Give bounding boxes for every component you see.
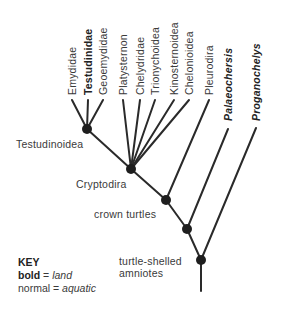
label-testudinoidea: Testudinoidea: [16, 138, 83, 150]
tip-palaeochersis: Palaeochersis: [222, 48, 234, 121]
node-palaeochersis-split: [182, 224, 192, 234]
key-bold-word: bold: [18, 269, 40, 281]
tip-platysternon: Platysternon: [117, 34, 129, 95]
tip-pleurodira: Pleurodira: [203, 45, 215, 95]
node-cryptodira: [126, 164, 136, 174]
tip-geoemydidae: Geoemydidae: [97, 27, 109, 95]
tip-trionychoidea: Trionychoidea: [149, 27, 161, 95]
key-equals: =: [43, 269, 49, 281]
label-cryptodira: Cryptodira: [76, 178, 126, 190]
cladogram-figure: Emydidae Testudinidae Geoemydidae Platys…: [0, 0, 283, 310]
key-bold-meaning: land: [52, 269, 72, 281]
label-crown-turtles: crown turtles: [94, 208, 156, 220]
node-crown-turtles: [161, 195, 171, 205]
key-bold-row: bold = land: [18, 269, 96, 282]
key-normal-row: normal = aquatic: [18, 282, 96, 295]
key-equals: =: [53, 282, 59, 294]
node-testudinoidea: [82, 124, 92, 134]
tip-chelonioidea: Chelonioidea: [183, 31, 195, 95]
tip-testudinidae: Testudinidae: [82, 29, 94, 95]
key-title: KEY: [18, 256, 96, 269]
tip-chelydridae: Chelydridae: [134, 37, 146, 95]
legend-key: KEY bold = land normal = aquatic: [18, 256, 96, 295]
tip-proganochelys: Proganochelys: [250, 43, 262, 121]
label-amniotes: amniotes: [119, 267, 163, 279]
key-normal-word: normal: [18, 282, 50, 294]
node-turtle-shelled-amniotes: [196, 255, 206, 265]
key-normal-meaning: aquatic: [62, 282, 96, 294]
label-turtle-shelled: turtle-shelled: [119, 255, 182, 267]
tip-emydidae: Emydidae: [66, 47, 78, 95]
tip-kinosternoidea: Kinosternoidea: [168, 22, 180, 95]
